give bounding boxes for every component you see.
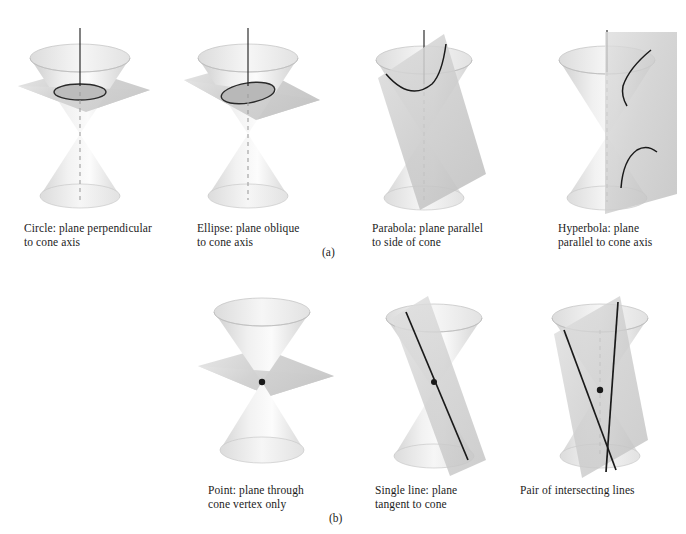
diagram-intersecting-lines — [524, 290, 679, 485]
cone-vertex-marker — [431, 379, 437, 385]
caption-point: Point: plane through cone vertex only — [208, 484, 304, 511]
caption-single-line: Single line: plane tangent to cone — [375, 484, 457, 511]
caption-parabola: Parabola: plane parallel to side of cone — [372, 222, 483, 249]
diagram-single-line — [358, 290, 508, 485]
diagram-ellipse — [178, 24, 328, 219]
diagram-point — [192, 290, 342, 485]
lower-cone-base — [208, 184, 288, 208]
diagram-hyperbola — [543, 24, 686, 219]
caption-intersecting-lines: Pair of intersecting lines — [520, 484, 635, 498]
part-label-a: (a) — [322, 246, 335, 258]
caption-ellipse: Ellipse: plane oblique to cone axis — [197, 222, 299, 249]
cone-vertex-marker — [597, 387, 603, 393]
part-label-b: (b) — [329, 512, 342, 524]
caption-circle: Circle: plane perpendicular to cone axis — [24, 222, 152, 249]
caption-hyperbola: Hyperbola: plane parallel to cone axis — [558, 222, 652, 249]
section-curve-point — [259, 379, 265, 385]
diagram-circle — [10, 24, 160, 219]
conic-sections-figure: Circle: plane perpendicular to cone axis — [0, 0, 686, 534]
diagram-parabola — [358, 24, 508, 219]
lower-cone-base — [220, 437, 304, 463]
